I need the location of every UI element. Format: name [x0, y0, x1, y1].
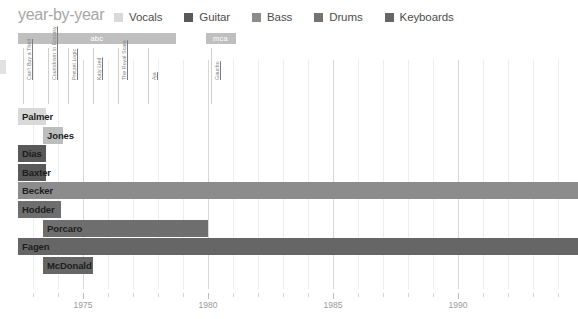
- axis-label-1990: 1990: [449, 300, 468, 310]
- legend-label: Guitar: [199, 11, 230, 23]
- legend-label: Drums: [329, 11, 362, 23]
- axis-tick-1981: [233, 293, 234, 297]
- legend-item-bass[interactable]: Bass: [252, 11, 292, 23]
- member-row: McDonald: [0, 257, 578, 274]
- page-title: year-by-year: [18, 6, 104, 24]
- axis-tick-1992: [508, 293, 509, 297]
- bar-becker[interactable]: [18, 182, 578, 199]
- label-bar-mca[interactable]: mca: [206, 33, 236, 44]
- square-swatch-icon: [314, 13, 323, 22]
- legend-item-drums[interactable]: Drums: [314, 11, 362, 23]
- album-tick: [48, 48, 49, 104]
- axis-tick-1985: [333, 293, 334, 299]
- legend-label: Bass: [267, 11, 292, 23]
- axis-tick-1982: [258, 293, 259, 297]
- bar-label-becker: Becker: [18, 182, 53, 199]
- axis-label-1985: 1985: [324, 300, 343, 310]
- bar-label-baxter: Baxter: [18, 164, 51, 181]
- legend-item-vocals[interactable]: Vocals: [114, 11, 162, 23]
- legend-item-guitar[interactable]: Guitar: [184, 11, 230, 23]
- plot-area: abcmca Can't Buy a ThrillCountdown to Ec…: [0, 30, 578, 319]
- member-row: Hodder: [0, 201, 578, 218]
- square-swatch-icon: [252, 13, 261, 22]
- album-tick: [93, 48, 94, 104]
- legend: VocalsGuitarBassDrumsKeyboards: [114, 9, 476, 25]
- bar-label-palmer: Palmer: [18, 108, 53, 125]
- square-swatch-icon: [184, 13, 193, 22]
- axis-tick-1991: [483, 293, 484, 297]
- axis-label-1980: 1980: [199, 300, 218, 310]
- axis-tick-1986: [358, 293, 359, 297]
- axis-tick-1983: [283, 293, 284, 297]
- axis-tick-1994: [558, 293, 559, 297]
- album-tick: [148, 48, 149, 104]
- legend-label: Vocals: [129, 11, 162, 23]
- bar-fagen[interactable]: [18, 238, 578, 255]
- album-tick: [211, 48, 212, 104]
- axis-tick-1975: [83, 293, 84, 299]
- square-swatch-icon: [385, 13, 394, 22]
- axis-tick-1990: [458, 293, 459, 299]
- axis-label-1975: 1975: [74, 300, 93, 310]
- axis-tick-1989: [433, 293, 434, 297]
- axis-tick-1977: [133, 293, 134, 297]
- year-by-year-chart: year-by-year VocalsGuitarBassDrumsKeyboa…: [0, 0, 578, 319]
- axis-tick-1973: [33, 293, 34, 297]
- album-tick: [68, 48, 69, 104]
- member-row: Dias: [0, 145, 578, 162]
- member-row: Palmer: [0, 108, 578, 125]
- bar-label-dias: Dias: [18, 145, 42, 162]
- axis-tick-1988: [408, 293, 409, 297]
- album-title[interactable]: Countdown to Ecstasy: [51, 26, 57, 80]
- label-bar-text: abc: [90, 34, 103, 43]
- axis-tick-1974: [58, 293, 59, 297]
- bar-label-porcaro: Porcaro: [43, 220, 82, 237]
- bar-label-fagen: Fagen: [18, 238, 49, 255]
- album-title[interactable]: Pretzel Logic: [71, 49, 77, 80]
- axis-tick-1976: [108, 293, 109, 297]
- legend-item-keyboards[interactable]: Keyboards: [385, 11, 454, 23]
- label-bar-text: mca: [213, 34, 228, 43]
- axis-tick-1979: [183, 293, 184, 297]
- member-row: Porcaro: [0, 220, 578, 237]
- chart-header: year-by-year VocalsGuitarBassDrumsKeyboa…: [0, 0, 578, 30]
- axis-tick-1980: [208, 293, 209, 299]
- label-bar-abc[interactable]: abc: [18, 33, 176, 44]
- album-title[interactable]: The Royal Scam: [121, 40, 127, 80]
- album-title[interactable]: Aja: [151, 72, 157, 80]
- axis-tick-1987: [383, 293, 384, 297]
- legend-label: Keyboards: [400, 11, 454, 23]
- member-row: Jones: [0, 127, 578, 144]
- bar-label-mcdonald: McDonald: [43, 257, 92, 274]
- axis-tick-1984: [308, 293, 309, 297]
- album-tick: [118, 48, 119, 104]
- album-title[interactable]: Can't Buy a Thrill: [26, 39, 32, 80]
- bar-label-jones: Jones: [43, 127, 74, 144]
- x-axis: 1975198019851990: [0, 293, 578, 319]
- axis-tick-1993: [533, 293, 534, 297]
- album-title[interactable]: Katy Lied: [96, 57, 102, 80]
- member-row: Fagen: [0, 238, 578, 255]
- bar-label-hodder: Hodder: [18, 201, 55, 218]
- square-swatch-icon: [114, 13, 123, 22]
- album-title[interactable]: Gaucho: [214, 61, 220, 80]
- album-tick: [23, 48, 24, 104]
- axis-tick-1978: [158, 293, 159, 297]
- member-row: Baxter: [0, 164, 578, 181]
- member-row: Becker: [0, 182, 578, 199]
